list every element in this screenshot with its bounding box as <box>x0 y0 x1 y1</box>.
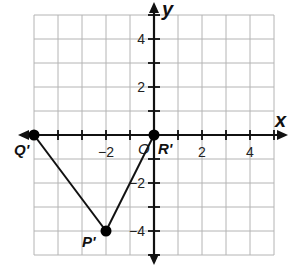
x-tick-label: 2 <box>198 144 206 160</box>
point-label: Q' <box>14 141 30 158</box>
x-tick-label: 4 <box>246 144 254 160</box>
point-label: R' <box>158 140 173 157</box>
point-label: P' <box>82 233 96 250</box>
y-tick-label: 4 <box>137 31 145 47</box>
point-p-prime <box>101 226 112 237</box>
y-axis-arrow-up-icon <box>149 2 159 13</box>
y-tick-label: 2 <box>137 79 145 95</box>
coordinate-plane: −22442−2−4 x y O Q'P'R' <box>0 0 290 266</box>
point-r-prime <box>149 130 160 141</box>
x-axis-arrow-right-icon <box>277 130 288 140</box>
y-tick-label: −4 <box>129 223 145 239</box>
point-q-prime <box>29 130 40 141</box>
x-axis-arrow-left-icon <box>18 130 29 140</box>
y-axis-label: y <box>161 0 174 20</box>
x-tick-label: −2 <box>98 144 114 160</box>
x-axis-label: x <box>274 109 287 131</box>
y-tick-label: −2 <box>129 175 145 191</box>
